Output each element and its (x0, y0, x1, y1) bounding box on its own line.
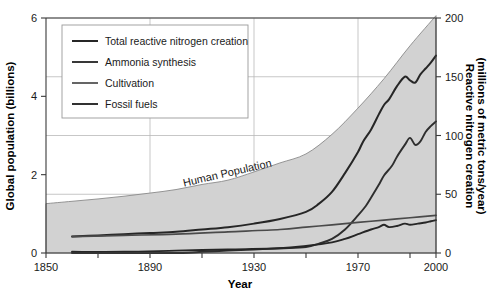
y-tick-label-left: 0 (31, 247, 37, 259)
y-tick-label-right: 50 (445, 188, 457, 200)
y-tick-label-left: 2 (31, 169, 37, 181)
y-axis-right-title: Reactive nitrogen creation(millions of m… (464, 57, 488, 214)
x-tick-label: 2000 (424, 261, 448, 273)
nitrogen-population-chart: 024605010015020018501890193019702000 Hum… (0, 0, 494, 295)
y-tick-label-right: 100 (445, 130, 463, 142)
y-tick-label-left: 4 (31, 90, 37, 102)
x-tick-label: 1930 (242, 261, 266, 273)
x-tick-label: 1970 (346, 261, 370, 273)
x-tick-label: 1890 (138, 261, 162, 273)
legend-label-1: Ammonia synthesis (105, 56, 196, 68)
figure-container: 024605010015020018501890193019702000 Hum… (0, 0, 494, 295)
x-tick-label: 1850 (34, 261, 58, 273)
y-tick-label-right: 200 (445, 12, 463, 24)
legend-label-3: Fossil fuels (105, 98, 158, 110)
legend-label-2: Cultivation (105, 77, 154, 89)
y-axis-right-title-line2: (millions of metric tons/year) (476, 57, 488, 214)
x-axis-title: Year (228, 278, 253, 290)
y-tick-label-right: 0 (445, 247, 451, 259)
legend-label-0: Total reactive nitrogen creation (105, 35, 248, 47)
legend: Total reactive nitrogen creationAmmonia … (62, 25, 248, 118)
y-tick-label-left: 6 (31, 12, 37, 24)
y-tick-label-right: 150 (445, 71, 463, 83)
y-axis-right-title-line1: Reactive nitrogen creation (464, 64, 476, 208)
y-axis-left-title: Global population (billions) (4, 61, 16, 210)
